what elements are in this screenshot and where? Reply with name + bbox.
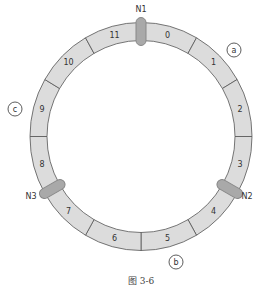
figure-caption: 图 3-6: [128, 276, 155, 286]
segment-label: 1: [211, 58, 216, 67]
segment-label: 0: [165, 31, 170, 40]
callout-label: c: [13, 105, 17, 114]
node-label-n1: N1: [135, 5, 146, 14]
node-label-n2: N2: [241, 192, 252, 201]
ring-segment: 10: [45, 38, 94, 89]
segment-label: 11: [109, 31, 119, 40]
segment-label: 2: [237, 105, 242, 114]
ring-segment: 6: [86, 220, 142, 251]
ring-nodes: [38, 18, 245, 201]
callout-label: a: [232, 46, 237, 55]
callout-b: b: [169, 255, 183, 269]
ring-segment: 0: [141, 23, 197, 54]
ring-segment: 2: [222, 80, 252, 137]
callout-a: a: [227, 43, 241, 57]
segment-label: 6: [112, 234, 117, 243]
ring-segment: 11: [86, 23, 142, 54]
segment-label: 9: [39, 105, 44, 114]
segment-label: 7: [66, 207, 71, 216]
segment-label: 3: [237, 160, 242, 169]
node-label-n3: N3: [25, 192, 36, 201]
ring-segment: 5: [141, 220, 197, 251]
callout-label: b: [173, 258, 178, 267]
segment-label: 5: [165, 234, 170, 243]
node-n1-marker: [136, 18, 146, 46]
ring-segment: 9: [30, 80, 60, 137]
ring-segments: 01234567891011: [30, 23, 252, 251]
callout-c: c: [8, 102, 22, 116]
hash-ring-diagram: 01234567891011 N1N2N3 abc 图 3-6: [0, 0, 265, 290]
segment-label: 8: [39, 160, 44, 169]
segment-label: 4: [211, 207, 216, 216]
segment-label: 10: [63, 58, 73, 67]
